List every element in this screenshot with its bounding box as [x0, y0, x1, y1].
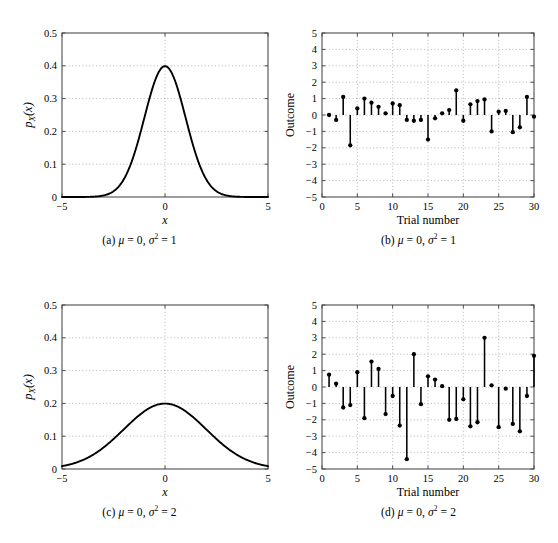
stem-marker — [482, 97, 486, 101]
x-tick-label: 5 — [265, 201, 270, 212]
y-tick-label: −3 — [306, 159, 317, 170]
stem-marker — [433, 377, 437, 381]
stem-marker — [447, 418, 451, 422]
panel-b: 051015202530−5−4−3−2−1012345Trial number… — [279, 0, 558, 272]
stem-marker — [440, 384, 444, 388]
stem-marker — [482, 336, 486, 340]
y-axis-label-text: Outcome — [283, 93, 297, 137]
y-tick-label: 3 — [312, 60, 317, 71]
stem-marker — [419, 402, 423, 406]
stem-marker — [391, 101, 395, 105]
caption-a-sigma-value: 1 — [171, 234, 177, 246]
stem-marker — [532, 114, 536, 118]
stem-marker — [525, 95, 529, 99]
figure-grid: −50500.10.20.30.40.5xpX(x) (a) μ = 0, σ2… — [0, 0, 558, 543]
y-axis-label-text: Outcome — [283, 365, 297, 409]
y-axis-label-text: pX(x) — [21, 102, 37, 129]
plot-c-svg: −50500.10.20.30.40.5xpX(x) — [0, 272, 279, 504]
y-axis-label: pX(x) — [21, 102, 37, 129]
y-tick-label: 0.3 — [44, 365, 57, 376]
plot-a-svg: −50500.10.20.30.40.5xpX(x) — [0, 0, 279, 232]
y-tick-label: −2 — [306, 142, 317, 153]
stem-marker — [405, 457, 409, 461]
y-axis-label: Outcome — [283, 365, 297, 409]
stem-marker — [447, 108, 451, 112]
axes-group: −50500.10.20.30.40.5 — [44, 300, 271, 484]
y-axis-label: Outcome — [283, 93, 297, 137]
y-tick-label: −1 — [306, 126, 317, 137]
stem-marker — [461, 119, 465, 123]
caption-c: (c) μ = 0, σ2 = 2 — [0, 504, 279, 518]
y-axis-label: pX(x) — [21, 374, 37, 401]
x-tick-label: 0 — [162, 473, 167, 484]
y-tick-label: 2 — [312, 77, 317, 88]
stem-marker — [497, 425, 501, 429]
y-tick-label: 0.2 — [44, 398, 57, 409]
stem-marker — [468, 424, 472, 428]
plot-a-container: −50500.10.20.30.40.5xpX(x) — [0, 0, 279, 232]
x-tick-label: 15 — [423, 201, 434, 212]
x-tick-label: 20 — [458, 473, 469, 484]
y-tick-label: 0.5 — [44, 300, 57, 311]
x-tick-label: 25 — [493, 201, 504, 212]
panel-a: −50500.10.20.30.40.5xpX(x) (a) μ = 0, σ2… — [0, 0, 279, 272]
y-tick-label: −4 — [306, 175, 318, 186]
stem-marker — [454, 417, 458, 421]
x-tick-label: 10 — [387, 473, 398, 484]
caption-d: (d) μ = 0, σ2 = 2 — [279, 504, 558, 518]
panel-d: 051015202530−5−4−3−2−1012345Trial number… — [279, 272, 558, 543]
y-tick-label: −2 — [306, 414, 317, 425]
y-tick-label: 4 — [312, 316, 318, 327]
x-tick-label: 25 — [493, 473, 504, 484]
plot-d-container: 051015202530−5−4−3−2−1012345Trial number… — [279, 272, 558, 504]
stem-marker — [341, 95, 345, 99]
stem-marker — [440, 111, 444, 115]
stem-marker — [327, 373, 331, 377]
stem-marker — [525, 394, 529, 398]
caption-a: (a) μ = 0, σ2 = 1 — [0, 232, 279, 246]
stem-marker — [398, 423, 402, 427]
stem-marker — [504, 386, 508, 390]
stem-marker — [489, 129, 493, 133]
caption-a-prefix: (a) — [102, 234, 115, 246]
stem-marker — [334, 382, 338, 386]
caption-b-sigma-value: 1 — [450, 234, 456, 246]
stem-marker — [376, 367, 380, 371]
stem-marker — [497, 110, 501, 114]
x-tick-label: 15 — [423, 473, 434, 484]
stem-marker — [355, 370, 359, 374]
stem-marker — [362, 96, 366, 100]
stem-marker — [454, 88, 458, 92]
stem-marker — [398, 103, 402, 107]
y-tick-label: 0.3 — [44, 93, 57, 104]
x-tick-label: 0 — [319, 201, 324, 212]
y-tick-label: 0 — [52, 464, 57, 475]
stem-marker — [334, 118, 338, 122]
stem-series — [327, 88, 536, 147]
x-tick-label: 20 — [458, 201, 469, 212]
x-axis-label: x — [161, 485, 168, 499]
y-tick-label: −5 — [306, 464, 317, 475]
stem-marker — [518, 125, 522, 129]
y-tick-label: 0 — [52, 192, 57, 203]
x-tick-label: −5 — [56, 201, 67, 212]
x-tick-label: 5 — [355, 473, 360, 484]
plot-c-container: −50500.10.20.30.40.5xpX(x) — [0, 272, 279, 504]
y-tick-label: 2 — [312, 349, 317, 360]
y-axis-label-text: pX(x) — [21, 374, 37, 401]
axes-group: −50500.10.20.30.40.5 — [44, 28, 271, 212]
stem-marker — [383, 111, 387, 115]
x-axis-label: Trial number — [397, 213, 460, 227]
y-tick-label: 0 — [312, 110, 317, 121]
stem-marker — [341, 405, 345, 409]
stem-marker — [468, 102, 472, 106]
stem-marker — [383, 412, 387, 416]
caption-c-sigma-value: 2 — [171, 506, 177, 518]
stem-marker — [511, 422, 515, 426]
panel-c: −50500.10.20.30.40.5xpX(x) (c) μ = 0, σ2… — [0, 272, 279, 543]
stem-marker — [419, 118, 423, 122]
caption-d-prefix: (d) — [381, 506, 395, 518]
stem-marker — [489, 383, 493, 387]
y-tick-label: 0.4 — [44, 332, 58, 343]
axes-group: 051015202530−5−4−3−2−1012345 — [306, 300, 539, 484]
